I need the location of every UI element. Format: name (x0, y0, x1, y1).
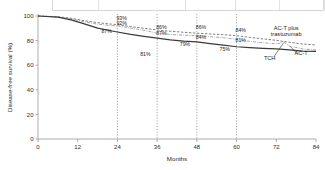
point-label: 92% (116, 20, 127, 26)
y-tick-label: 0 (30, 136, 34, 142)
point-label: 75% (220, 46, 231, 52)
series-annotation: AC-T plustrastuzumab (271, 25, 302, 37)
y-axis-title: Disease-free survival (%) (6, 43, 13, 112)
point-label: 87% (101, 28, 112, 34)
x-axis-title: Months (167, 155, 187, 162)
gridlines-group (117, 14, 236, 139)
y-tick-label: 60 (27, 62, 34, 68)
point-label: 84% (196, 34, 207, 40)
series-annotation-labels-group: AC-T plustrastuzumabTCHAC-T (264, 25, 308, 62)
point-label: 81% (140, 51, 151, 57)
y-tick-label: 100 (23, 13, 34, 19)
x-axis-tick-labels: 012243648607284 (36, 144, 320, 150)
x-tick-label: 36 (154, 144, 161, 150)
x-tick-label: 72 (273, 144, 280, 150)
survival-chart: 020406080100 012243648607284 Disease-fre… (0, 0, 325, 170)
y-tick-label: 80 (27, 38, 34, 44)
x-tick-label: 60 (233, 144, 240, 150)
point-label: 84% (236, 27, 247, 33)
point-value-labels-group: 93%92%87%81%86%87%86%84%79%84%81%75% (101, 15, 246, 58)
point-label: 79% (180, 41, 191, 47)
x-axis-ticks (38, 139, 316, 142)
x-tick-label: 84 (313, 144, 320, 150)
figure-container: 020406080100 012243648607284 Disease-fre… (0, 0, 325, 170)
y-tick-label: 20 (27, 112, 34, 118)
y-axis-tick-labels: 020406080100 (23, 13, 34, 142)
x-tick-label: 0 (36, 144, 40, 150)
y-tick-label: 40 (27, 87, 34, 93)
point-label: 86% (196, 24, 207, 30)
series-annotation: TCH (264, 55, 276, 61)
x-tick-label: 12 (74, 144, 81, 150)
point-label: 87% (156, 30, 167, 36)
x-tick-label: 24 (114, 144, 121, 150)
point-label: 81% (236, 37, 247, 43)
x-tick-label: 48 (194, 144, 201, 150)
